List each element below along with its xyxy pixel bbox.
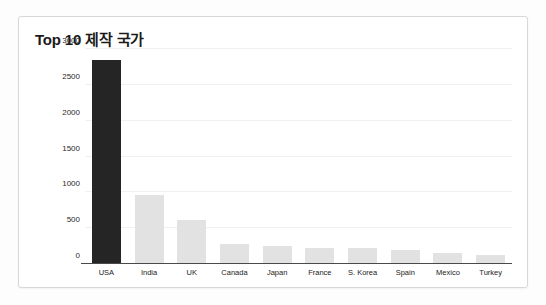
y-axis-tick-label: 0 xyxy=(76,251,80,260)
x-axis-tick-label: S. Korea xyxy=(341,268,384,277)
x-axis-tick-label: India xyxy=(128,268,171,277)
y-axis-tick-label: 3000 xyxy=(62,36,80,45)
bars-group xyxy=(85,49,512,263)
bar-slot[interactable] xyxy=(427,49,470,263)
bar-spain[interactable] xyxy=(391,250,420,263)
x-axis-tick-label: USA xyxy=(85,268,128,277)
bar-slot[interactable] xyxy=(128,49,171,263)
y-axis-tick-label: 2000 xyxy=(62,107,80,116)
bar-uk[interactable] xyxy=(177,220,206,263)
y-axis-tick-label: 1500 xyxy=(62,143,80,152)
x-axis-tick-label: Canada xyxy=(213,268,256,277)
screenshot-root: Top 10 제작 국가 050010001500200025003000 US… xyxy=(0,0,546,305)
x-axis-line xyxy=(81,263,512,265)
bar-slot[interactable] xyxy=(85,49,128,263)
bar-india[interactable] xyxy=(135,195,164,263)
bar-slot[interactable] xyxy=(170,49,213,263)
bar-slot[interactable] xyxy=(213,49,256,263)
bar-france[interactable] xyxy=(305,248,334,263)
bar-slot[interactable] xyxy=(469,49,512,263)
bar-s-korea[interactable] xyxy=(348,248,377,263)
bar-slot[interactable] xyxy=(256,49,299,263)
y-axis-tick-label: 1000 xyxy=(62,179,80,188)
y-axis-tick-label: 500 xyxy=(67,215,80,224)
x-axis-tick-label: Japan xyxy=(256,268,299,277)
x-axis-tick-label: Mexico xyxy=(427,268,470,277)
x-axis-labels: USAIndiaUKCanadaJapanFranceS. KoreaSpain… xyxy=(85,268,512,277)
bar-slot[interactable] xyxy=(384,49,427,263)
x-axis-tick-label: France xyxy=(299,268,342,277)
plot-area: 050010001500200025003000 USAIndiaUKCanad… xyxy=(85,49,512,264)
bar-mexico[interactable] xyxy=(433,253,462,263)
x-axis-tick-label: UK xyxy=(170,268,213,277)
bar-canada[interactable] xyxy=(220,244,249,263)
x-axis-tick-label: Spain xyxy=(384,268,427,277)
bar-japan[interactable] xyxy=(263,246,292,263)
bar-slot[interactable] xyxy=(341,49,384,263)
bar-slot[interactable] xyxy=(299,49,342,263)
y-axis-tick-label: 2500 xyxy=(62,71,80,80)
page-title: Top 10 제작 국가 xyxy=(35,28,144,49)
x-axis-tick-label: Turkey xyxy=(469,268,512,277)
bar-usa[interactable] xyxy=(92,60,121,263)
chart-card: Top 10 제작 국가 050010001500200025003000 US… xyxy=(18,16,528,288)
